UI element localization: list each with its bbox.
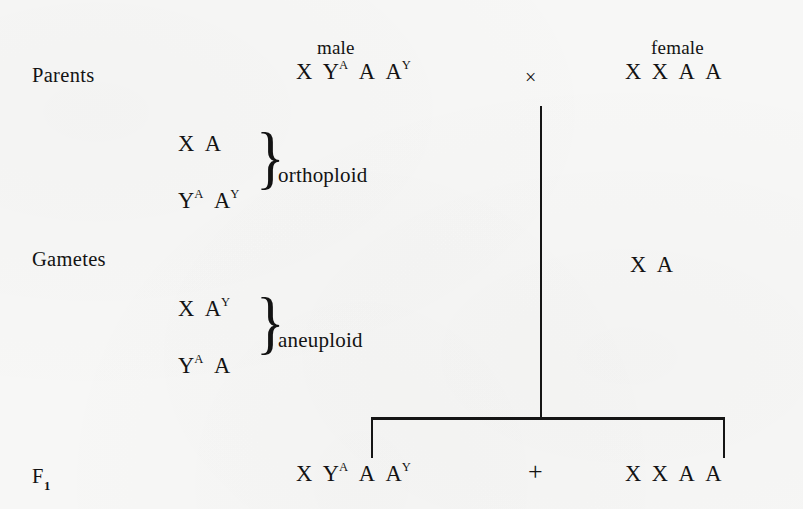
female-parent-genotype: X X A A bbox=[625, 59, 722, 85]
allele-symbol: A bbox=[679, 59, 696, 84]
aneuploid-gamete-line-2: YA A bbox=[178, 353, 231, 379]
cross-vertical-connector-line bbox=[540, 106, 542, 418]
allele-superscript: Y bbox=[402, 460, 411, 474]
gametes-row-label: Gametes bbox=[32, 248, 106, 271]
female-header-label: female bbox=[651, 37, 704, 59]
allele-symbol: AY bbox=[386, 461, 412, 486]
allele-symbol: AY bbox=[214, 188, 240, 213]
allele-superscript: Y bbox=[402, 58, 411, 72]
aneuploid-label: aneuploid bbox=[278, 328, 363, 353]
allele-symbol: YA bbox=[323, 59, 349, 84]
allele-superscript: A bbox=[339, 58, 348, 72]
f1-label-subscript: 1 bbox=[44, 479, 51, 493]
f1-bracket-horizontal-line bbox=[371, 417, 725, 420]
allele-symbol: X bbox=[296, 461, 313, 486]
f1-right-genotype: X X A A bbox=[625, 461, 722, 487]
allele-superscript: Y bbox=[221, 295, 230, 309]
allele-symbol: A bbox=[679, 461, 696, 486]
allele-symbol: A bbox=[359, 59, 376, 84]
allele-symbol: X bbox=[625, 461, 642, 486]
allele-superscript: A bbox=[194, 187, 203, 201]
allele-symbol: X bbox=[652, 59, 669, 84]
male-header-label: male bbox=[317, 37, 355, 59]
allele-symbol: A bbox=[214, 353, 231, 378]
allele-symbol: X bbox=[296, 59, 313, 84]
allele-symbol: AY bbox=[386, 59, 412, 84]
allele-symbol: A bbox=[359, 461, 376, 486]
allele-symbol: YA bbox=[178, 188, 204, 213]
orthoploid-gamete-line-1: X A bbox=[178, 131, 222, 157]
f1-row-label: F1 bbox=[32, 465, 50, 492]
f1-label-base: F bbox=[32, 465, 44, 487]
allele-superscript: A bbox=[194, 352, 203, 366]
allele-superscript: A bbox=[339, 460, 348, 474]
f1-plus-operator-symbol: + bbox=[528, 457, 543, 487]
orthoploid-label: orthoploid bbox=[278, 163, 368, 188]
allele-symbol: A bbox=[657, 252, 674, 277]
f1-bracket-right-tick bbox=[723, 418, 725, 458]
cross-operator-symbol: × bbox=[525, 66, 536, 89]
allele-superscript: Y bbox=[230, 187, 239, 201]
allele-symbol: A bbox=[205, 131, 222, 156]
allele-symbol: A bbox=[705, 59, 722, 84]
f1-bracket-left-tick bbox=[371, 418, 373, 458]
allele-symbol: A bbox=[705, 461, 722, 486]
allele-symbol: AY bbox=[205, 296, 231, 321]
allele-symbol: X bbox=[178, 296, 195, 321]
female-gamete-genotype: X A bbox=[630, 252, 674, 278]
allele-symbol: X bbox=[625, 59, 642, 84]
orthoploid-gamete-line-2: YA AY bbox=[178, 188, 240, 214]
genetic-cross-diagram: Parents male X YA A AY × female X X A A … bbox=[0, 0, 803, 509]
male-parent-genotype: X YA A AY bbox=[296, 59, 412, 85]
parents-row-label: Parents bbox=[32, 64, 94, 87]
allele-symbol: YA bbox=[323, 461, 349, 486]
f1-left-genotype: X YA A AY bbox=[296, 461, 412, 487]
allele-symbol: X bbox=[652, 461, 669, 486]
allele-symbol: YA bbox=[178, 353, 204, 378]
allele-symbol: X bbox=[630, 252, 647, 277]
aneuploid-gamete-line-1: X AY bbox=[178, 296, 231, 322]
allele-symbol: X bbox=[178, 131, 195, 156]
